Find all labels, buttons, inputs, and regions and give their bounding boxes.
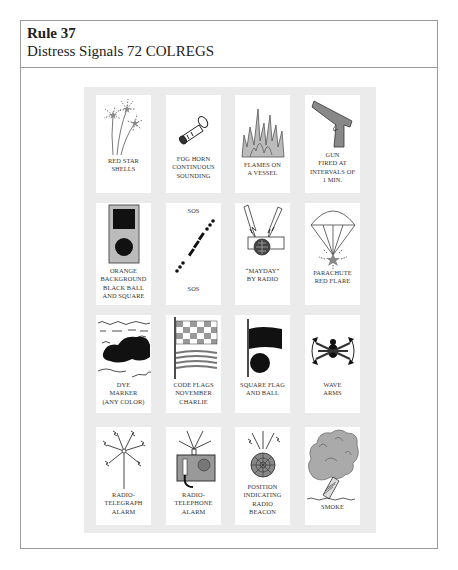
signal-card-mayday: “MAYDAY”BY RADIO bbox=[235, 203, 290, 305]
fog-horn-icon bbox=[169, 95, 219, 155]
signal-card-code-flags: CODE FLAGSNOVEMBERCHARLIE bbox=[166, 315, 221, 413]
signal-card-dye-marker: DYEMARKER(ANY COLOR) bbox=[96, 315, 151, 413]
signal-label: WAVEARMS bbox=[305, 381, 360, 398]
rule-header: Rule 37 Distress Signals 72 COLREGS bbox=[21, 21, 437, 68]
beacon-icon bbox=[238, 427, 288, 483]
rule-box: Rule 37 Distress Signals 72 COLREGS RED … bbox=[20, 20, 438, 549]
signal-label: FLAMES ONA VESSEL bbox=[235, 161, 290, 178]
ball-square-icon bbox=[99, 203, 149, 267]
radio-mayday-icon bbox=[238, 203, 288, 267]
signal-label: RADIO-TELEPHONEALARM bbox=[166, 491, 221, 516]
signal-label: SMOKE bbox=[305, 503, 360, 511]
smoke-icon bbox=[305, 427, 360, 503]
signal-label: “MAYDAY”BY RADIO bbox=[235, 267, 290, 284]
signal-card-gun: GUNFIRED ATINTERVALS OF1 MIN. bbox=[305, 95, 360, 193]
signal-label: RADIO-TELEGRAPHALARM bbox=[96, 491, 151, 516]
sos-morse-icon bbox=[169, 215, 219, 285]
signal-label: DYEMARKER(ANY COLOR) bbox=[96, 381, 151, 406]
signal-card-epirb: POSITIONINDICATINGRADIOBEACON bbox=[235, 427, 290, 525]
signal-card-smoke: SMOKE bbox=[305, 427, 360, 525]
rule-title: Rule 37 bbox=[27, 24, 431, 42]
flag-ball-icon bbox=[238, 315, 288, 381]
signal-card-wave-arms: WAVEARMS bbox=[305, 315, 360, 413]
sos-top-label: SOS bbox=[166, 203, 221, 215]
signal-card-flames: FLAMES ONA VESSEL bbox=[235, 95, 290, 193]
signal-label: GUNFIRED ATINTERVALS OF1 MIN. bbox=[305, 151, 360, 185]
signal-label: ORANGEBACKGROUNDBLACK BALLAND SQUARE bbox=[96, 267, 151, 301]
parachute-icon bbox=[307, 203, 359, 269]
signal-card-radio-telephone: RADIO-TELEPHONEALARM bbox=[166, 427, 221, 525]
dye-marker-icon bbox=[96, 315, 151, 381]
signals-panel: RED STARSHELLS FOG HORNCONTINUOUSSOUNDIN… bbox=[84, 87, 376, 533]
signal-label: PARACHUTERED FLARE bbox=[305, 269, 360, 286]
signal-card-red-star-shells: RED STARSHELLS bbox=[96, 95, 151, 193]
signal-label: CODE FLAGSNOVEMBERCHARLIE bbox=[166, 381, 221, 406]
rule-subtitle: Distress Signals 72 COLREGS bbox=[27, 42, 431, 61]
signal-card-parachute-flare: PARACHUTERED FLARE bbox=[305, 203, 360, 305]
signal-label: SOS bbox=[166, 285, 221, 293]
signal-card-sos: SOS SOS bbox=[166, 203, 221, 305]
antenna-icon bbox=[99, 427, 149, 491]
flames-icon bbox=[238, 95, 288, 161]
signal-card-fog-horn: FOG HORNCONTINUOUSSOUNDING bbox=[166, 95, 221, 193]
signal-card-orange-background: ORANGEBACKGROUNDBLACK BALLAND SQUARE bbox=[96, 203, 151, 305]
signal-label: POSITIONINDICATINGRADIOBEACON bbox=[235, 483, 290, 517]
signal-label: SQUARE FLAGAND BALL bbox=[235, 381, 290, 398]
wave-arms-icon bbox=[308, 315, 358, 381]
signal-card-square-flag-ball: SQUARE FLAGAND BALL bbox=[235, 315, 290, 413]
code-flags-icon bbox=[169, 315, 219, 381]
signal-card-radio-telegraph: RADIO-TELEGRAPHALARM bbox=[96, 427, 151, 525]
signal-label: RED STARSHELLS bbox=[96, 157, 151, 174]
telephone-icon bbox=[169, 427, 219, 491]
gun-icon bbox=[308, 95, 358, 151]
signal-label: FOG HORNCONTINUOUSSOUNDING bbox=[166, 155, 221, 180]
fireworks-icon bbox=[99, 95, 149, 157]
